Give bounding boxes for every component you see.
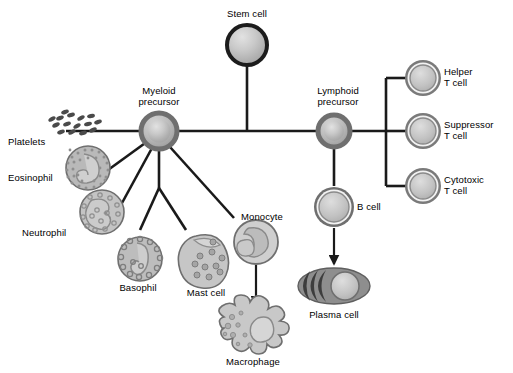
b-cell-node [314, 187, 354, 227]
lymphoid-precursor-node [318, 115, 350, 147]
myeloid-precursor-node [141, 113, 177, 149]
label-myeloid-precursor: Myeloid precursor [138, 86, 179, 107]
label-macrophage: Macrophage [226, 357, 280, 368]
label-basophil: Basophil [119, 283, 156, 294]
label-b-cell: B cell [357, 202, 381, 213]
hematopoiesis-diagram [0, 0, 513, 373]
label-eosinophil: Eosinophil [8, 173, 53, 184]
label-platelets: Platelets [8, 137, 45, 148]
label-cytotoxic-t-cell: Cytotoxic T cell [444, 175, 484, 196]
mast-cell-node [178, 235, 228, 288]
label-suppressor-t-cell: Suppressor T cell [444, 120, 494, 141]
helper-t-cell-node [405, 60, 441, 96]
stem-cell-node [227, 25, 267, 65]
suppressor-t-cell-node [405, 113, 441, 149]
label-lymphoid-precursor: Lymphoid precursor [317, 86, 359, 107]
eosinophil-node [66, 146, 111, 190]
label-mast-cell: Mast cell [187, 288, 225, 299]
basophil-node [118, 236, 163, 281]
label-helper-t-cell: Helper T cell [444, 67, 473, 88]
label-plasma-cell: Plasma cell [309, 310, 359, 321]
macrophage-node [219, 295, 289, 354]
label-neutrophil: Neutrophil [22, 228, 66, 239]
cytotoxic-t-cell-node [405, 168, 441, 204]
monocyte-node [234, 220, 278, 264]
label-monocyte: Monocyte [241, 212, 283, 223]
label-stem-cell: Stem cell [227, 9, 267, 20]
plasma-cell-node [298, 268, 370, 304]
neutrophil-node [80, 190, 124, 234]
